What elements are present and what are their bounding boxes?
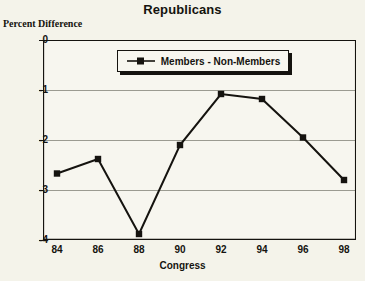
x-tick-label: 84 (42, 244, 72, 255)
data-point-marker (136, 231, 142, 237)
x-tick-label: 96 (288, 244, 318, 255)
y-tick-mark (39, 90, 43, 91)
x-tick-label: 92 (206, 244, 236, 255)
x-tick-label: 86 (83, 244, 113, 255)
y-tick-label: 0 (22, 34, 48, 45)
y-tick-mark (39, 40, 43, 41)
data-point-marker (300, 134, 306, 140)
y-tick-mark (39, 140, 43, 141)
chart-legend: Members - Non-Members (117, 50, 289, 72)
chart-title: Republicans (0, 2, 365, 17)
data-point-marker (341, 177, 347, 183)
data-point-marker (54, 170, 60, 176)
y-tick-label: -3 (22, 184, 48, 195)
x-axis-label: Congress (0, 260, 365, 271)
x-tick-label: 88 (124, 244, 154, 255)
data-point-marker (218, 91, 224, 97)
y-tick-mark (39, 190, 43, 191)
y-tick-mark (39, 240, 43, 241)
y-tick-label: -2 (22, 134, 48, 145)
x-tick-label: 98 (329, 244, 359, 255)
y-tick-label: -1 (22, 84, 48, 95)
x-tick-label: 90 (165, 244, 195, 255)
x-tick-label: 94 (247, 244, 277, 255)
y-axis-label: Percent Difference (3, 18, 82, 29)
data-point-marker (95, 156, 101, 162)
chart-figure: Republicans Percent Difference 0-1-2-3-4… (0, 0, 365, 281)
square-marker-icon (126, 55, 156, 67)
legend-label: Members - Non-Members (161, 56, 280, 67)
data-point-marker (177, 142, 183, 148)
data-point-marker (259, 96, 265, 102)
